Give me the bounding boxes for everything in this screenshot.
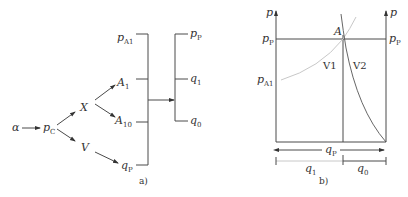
curve-v2 (341, 14, 386, 142)
diagram-canvas: α pC X V A1 A10 qP pA1 (0, 0, 408, 197)
label-v: V (81, 141, 90, 154)
dim-q1-q0 (276, 155, 386, 165)
curve-v1 (281, 17, 356, 80)
label-dim-q0: q0 (357, 162, 369, 177)
label-point-a: A (333, 25, 342, 38)
label-out-pp: pP (190, 27, 202, 42)
arrow-x-to-a10 (95, 104, 115, 117)
label-x: X (79, 101, 89, 114)
svg-text:pC: pC (43, 121, 55, 136)
label-region-v2: V2 (352, 60, 367, 71)
label-right-axis-p: p (390, 6, 397, 19)
figure-b: p p pP pP pA1 A V1 V2 qP q1 (257, 6, 401, 186)
label-region-v1: V1 (322, 60, 337, 71)
input-bracket (136, 34, 148, 165)
caption-b: b) (319, 176, 328, 186)
label-pa1: pA1 (257, 73, 274, 88)
label-qp: qP (121, 159, 133, 174)
label-pa1: pA1 (117, 31, 134, 46)
label-out-q0: q0 (190, 114, 202, 129)
arrow-v-to-qp (95, 152, 118, 163)
label-left-axis-p: p (266, 6, 273, 19)
arrow-pc-to-x (57, 112, 75, 125)
label-dim-qp: qP (325, 143, 337, 158)
label-dim-q1: q1 (305, 162, 317, 177)
label-pp-left: pP (262, 32, 274, 47)
label-out-q1: q1 (190, 72, 202, 87)
label-a1: A1 (116, 76, 129, 91)
label-a10: A10 (114, 114, 132, 129)
label-pp-right: pP (389, 32, 401, 47)
output-bracket (175, 34, 188, 121)
arrow-pc-to-v (57, 129, 75, 141)
label-pc: pC (43, 121, 55, 136)
figure-a: α pC X V A1 A10 qP pA1 (12, 27, 202, 186)
caption-a: a) (139, 176, 148, 186)
arrow-x-to-a1 (95, 85, 115, 100)
label-alpha: α (12, 121, 20, 134)
